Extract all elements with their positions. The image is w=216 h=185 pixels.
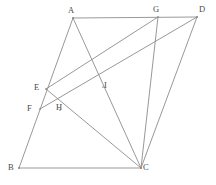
point-c xyxy=(140,167,142,169)
segment-EG xyxy=(46,17,158,89)
point-a xyxy=(72,17,74,19)
geometry-canvas xyxy=(0,0,216,185)
label-a: A xyxy=(68,6,74,15)
segment-FD xyxy=(40,17,197,109)
geometry-figure: AGDEIFHBC xyxy=(0,0,216,185)
label-c: C xyxy=(143,163,149,172)
point-b xyxy=(18,167,20,169)
label-i: I xyxy=(104,81,107,90)
segment-AD xyxy=(73,17,197,18)
label-d: D xyxy=(199,5,205,14)
label-h: H xyxy=(56,103,62,112)
label-g: G xyxy=(153,5,159,14)
vertices-group xyxy=(18,16,198,169)
point-g xyxy=(157,16,159,18)
label-b: B xyxy=(8,163,14,172)
label-f: F xyxy=(27,104,32,113)
label-e: E xyxy=(34,83,39,92)
segments-group xyxy=(19,17,197,168)
point-e xyxy=(45,88,47,90)
segment-EC xyxy=(46,89,141,168)
point-d xyxy=(196,16,198,18)
diagonal-AC xyxy=(73,18,141,168)
segment-AB xyxy=(19,18,73,168)
point-f xyxy=(39,108,41,110)
